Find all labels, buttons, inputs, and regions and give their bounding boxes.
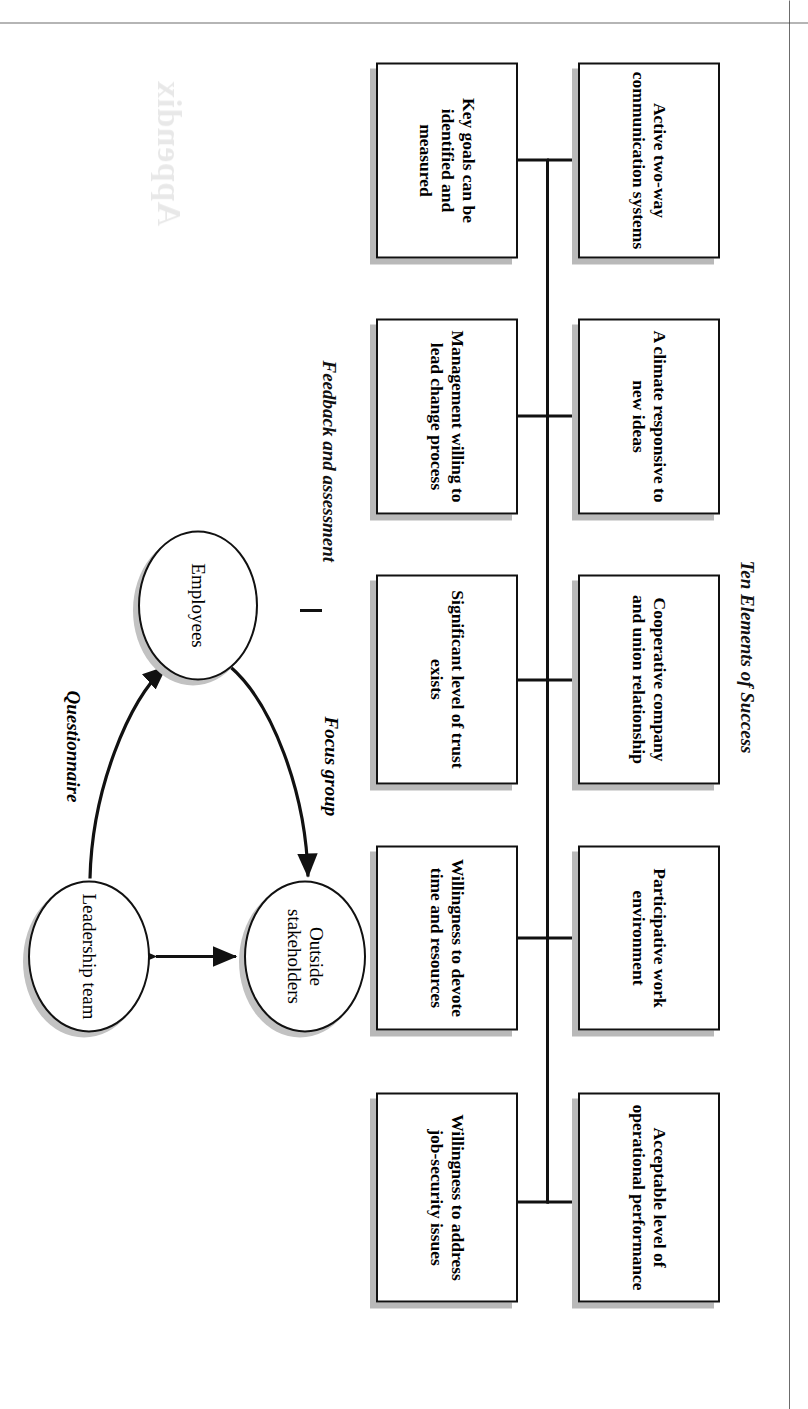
element-box-top-4: Participative work environment: [578, 845, 720, 1030]
node-outside-stakeholders: Outside stakeholders: [244, 880, 366, 1032]
element-box-bottom-4-label: Willingness to devote time and resources: [426, 853, 469, 1022]
element-box-bottom-2: Management willing to lead change proces…: [376, 318, 518, 514]
edge-label-focus-group: Focus group: [320, 716, 342, 816]
node-employees: Employees: [138, 530, 258, 680]
connector-up-1: [547, 158, 578, 161]
element-box-bottom-1: Key goals can be identified and measured: [376, 62, 518, 258]
node-leadership-team-label: Leadership team: [78, 887, 100, 1025]
element-box-top-5-label: Acceptable level of operational performa…: [628, 1100, 671, 1294]
node-leadership-team: Leadership team: [28, 880, 150, 1032]
figure-title-ten-elements: Ten Elements of Success: [736, 560, 758, 753]
element-box-bottom-3-label: Significant level of trust exists: [426, 582, 469, 776]
connector-down-5: [518, 1200, 549, 1203]
page-content: Appendix Ten Elements of Success Active …: [0, 0, 808, 1409]
connector-down-4: [518, 936, 549, 939]
element-box-bottom-2-label: Management willing to lead change proces…: [426, 326, 469, 506]
figure-ten-elements-of-success: Ten Elements of Success Active two-way c…: [408, 0, 768, 1409]
edge-questionnaire-arrow: [90, 666, 166, 878]
element-box-bottom-5-label: Willingness to address job-security issu…: [426, 1100, 469, 1294]
element-box-top-2: A climate responsive to new ideas: [578, 318, 720, 514]
connector-down-2: [518, 414, 549, 417]
element-box-bottom-4: Willingness to devote time and resources: [376, 845, 518, 1030]
element-box-bottom-5: Willingness to address job-security issu…: [376, 1092, 518, 1302]
node-employees-label: Employees: [187, 557, 209, 653]
connector-up-3: [547, 678, 578, 681]
element-box-top-5: Acceptable level of operational performa…: [578, 1092, 720, 1302]
connector-down-3: [518, 678, 549, 681]
connector-up-2: [547, 414, 578, 417]
figure-feedback-and-assessment: Feedback and assessment Employees: [8, 0, 378, 1409]
element-box-top-1-label: Active two-way communication systems: [628, 70, 671, 250]
edge-label-questionnaire: Questionnaire: [62, 690, 84, 802]
page-edge-rule-horizontal: [789, 0, 790, 1409]
connector-up-4: [547, 936, 578, 939]
element-box-bottom-3: Significant level of trust exists: [376, 574, 518, 784]
connector-up-5: [547, 1200, 578, 1203]
edge-focus-group-arrow: [230, 666, 308, 876]
connector-down-1: [518, 158, 549, 161]
element-box-top-2-label: A climate responsive to new ideas: [628, 326, 671, 506]
node-outside-stakeholders-label: Outside stakeholders: [283, 882, 327, 1030]
scanned-page: Appendix Ten Elements of Success Active …: [0, 0, 808, 1409]
element-box-top-3: Cooperative company and union relationsh…: [578, 574, 720, 784]
element-box-bottom-1-label: Key goals can be identified and measured: [415, 70, 479, 250]
element-box-top-4-label: Participative work environment: [628, 853, 671, 1022]
element-box-top-1: Active two-way communication systems: [578, 62, 720, 258]
element-box-top-3-label: Cooperative company and union relationsh…: [628, 582, 671, 776]
